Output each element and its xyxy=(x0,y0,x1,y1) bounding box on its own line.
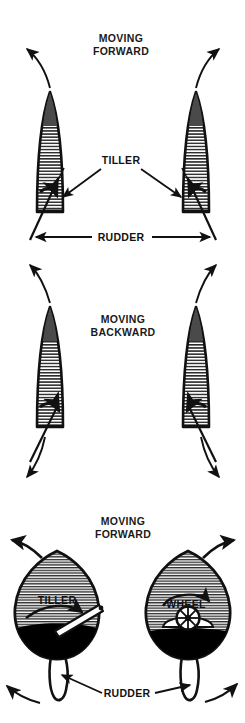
tiller-label: TILLER xyxy=(38,594,77,606)
wheel-spokes-icon xyxy=(177,607,199,629)
wheel-label: WHEEL xyxy=(166,598,206,610)
rudder-label: RUDDER xyxy=(98,231,145,243)
panel-middle-caption-line1: MOVING xyxy=(101,313,145,325)
diagram-canvas: MOVING FORWARD xyxy=(0,0,245,723)
tiller-label: TILLER xyxy=(102,154,141,166)
steering-diagram: MOVING FORWARD xyxy=(0,0,245,723)
panel-top-caption-line1: MOVING xyxy=(99,32,143,44)
rudder-label: RUDDER xyxy=(104,687,151,699)
panel-top-caption-line2: FORWARD xyxy=(93,45,149,57)
tiller-end-knob xyxy=(99,606,104,611)
panel-bottom-caption-line1: MOVING xyxy=(101,515,145,527)
panel-bottom-caption-line2: FORWARD xyxy=(95,528,151,540)
panel-middle-caption-line2: BACKWARD xyxy=(91,326,156,338)
